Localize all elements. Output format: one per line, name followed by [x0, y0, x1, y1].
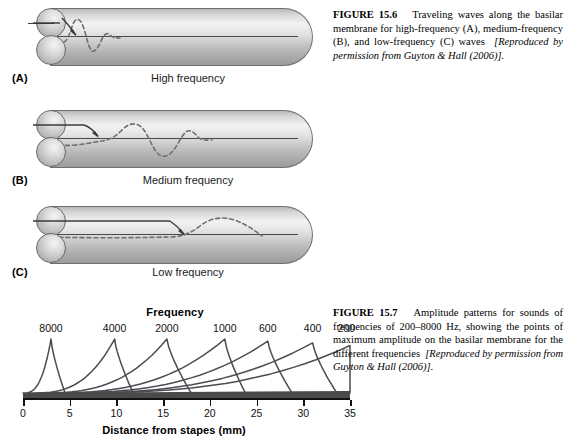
x-tick-label-30: 30	[297, 407, 309, 419]
figure-15-7-label: FIGURE 15.7	[333, 307, 398, 318]
frequency-label-4000: 4000	[103, 322, 126, 334]
amplitude-curve-8000	[23, 339, 65, 393]
stapes-arrow-b	[28, 110, 313, 168]
cochlea-panel-c: (C) Low frequency	[0, 200, 330, 295]
panel-letter-b: (B)	[12, 174, 28, 186]
chart-title: Frequency	[0, 306, 330, 318]
x-tick-label-10: 10	[111, 407, 123, 419]
figure-15-6: (A) High frequency (B) Medium frequency	[0, 0, 330, 300]
x-tick-label-20: 20	[204, 407, 216, 419]
amplitude-curves	[23, 339, 350, 393]
x-tick-label-25: 25	[251, 407, 263, 419]
panel-letter-c: (C)	[12, 266, 28, 278]
panel-caption-b: Medium frequency	[88, 174, 288, 186]
x-tick-10	[116, 400, 118, 406]
x-tick-30	[303, 400, 305, 406]
x-axis-title: Distance from stapes (mm)	[0, 424, 330, 436]
amplitude-curve-2000	[37, 339, 191, 393]
frequency-label-600: 600	[259, 322, 277, 334]
stapes-arrow-c	[28, 206, 313, 264]
frequency-legend-row: 8000400020001000600400200	[0, 322, 330, 336]
stapes-arrow-a	[28, 8, 313, 66]
cochlea-panel-a: (A) High frequency	[0, 2, 330, 97]
x-tick-15	[163, 400, 165, 406]
x-tick-label-0: 0	[20, 407, 26, 419]
x-tick-0	[23, 400, 25, 406]
x-tick-20	[210, 400, 212, 406]
x-tick-label-5: 5	[67, 407, 73, 419]
cochlear-duct-b	[28, 110, 313, 168]
panel-caption-a: High frequency	[88, 72, 288, 84]
cochlear-duct-c	[28, 206, 313, 264]
x-axis-line	[23, 398, 350, 400]
figure-15-7-caption: FIGURE 15.7 Amplitude patterns for sound…	[333, 306, 563, 374]
figure-15-6-label: FIGURE 15.6	[333, 9, 397, 20]
figure-15-6-caption: FIGURE 15.6 Traveling waves along the ba…	[333, 8, 563, 62]
panel-letter-a: (A)	[12, 72, 28, 84]
frequency-label-1000: 1000	[213, 322, 236, 334]
amplitude-curve-4000	[31, 339, 134, 393]
amplitude-plot	[0, 336, 330, 398]
cochlear-duct-a	[28, 8, 313, 66]
panel-caption-c: Low frequency	[88, 266, 288, 278]
x-tick-25	[257, 400, 259, 406]
frequency-label-2000: 2000	[155, 322, 178, 334]
frequency-label-8000: 8000	[39, 322, 62, 334]
figure-15-7: Frequency 8000400020001000600400200 0510…	[0, 300, 330, 448]
x-tick-35	[350, 400, 352, 406]
frequency-label-400: 400	[304, 322, 322, 334]
x-tick-label-35: 35	[344, 407, 356, 419]
x-tick-5	[70, 400, 72, 406]
x-tick-label-15: 15	[157, 407, 169, 419]
x-axis: 05101520253035	[0, 398, 330, 422]
cochlea-panel-b: (B) Medium frequency	[0, 104, 330, 199]
